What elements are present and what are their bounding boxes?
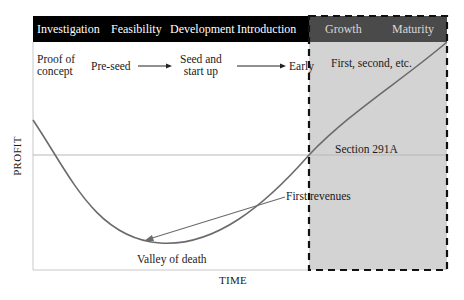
arrowhead-icon (166, 64, 172, 69)
y-axis-label: PROFIT (11, 136, 23, 176)
funding-proof-of-concept-line1: Proof of (37, 53, 75, 65)
growth-maturity-region (309, 42, 447, 270)
funding-seed-start-up: Seed and start up (180, 53, 222, 77)
section-291a-label: Section 291A (335, 143, 398, 155)
funding-seed-line2: start up (180, 65, 222, 77)
valley-of-death-label: Valley of death (137, 253, 207, 265)
funding-pre-seed: Pre-seed (91, 60, 131, 72)
funding-proof-of-concept-line2: concept (37, 65, 75, 77)
stage-maturity: Maturity (392, 16, 434, 42)
stage-growth: Growth (325, 16, 362, 42)
stage-introduction: Introduction (237, 16, 296, 42)
first-revenues-pointer (149, 197, 285, 239)
arrowhead-icon (280, 64, 286, 69)
stage-feasibility: Feasibility (111, 16, 162, 42)
funding-early: Early (289, 60, 314, 72)
stage-investigation: Investigation (37, 16, 100, 42)
arrowhead-icon (144, 235, 154, 241)
first-revenues-label: First revenues (286, 190, 351, 202)
funding-later-rounds: First, second, etc. (331, 57, 412, 69)
funding-proof-of-concept: Proof of concept (37, 53, 75, 77)
x-axis-label: TIME (219, 274, 247, 286)
funding-seed-line1: Seed and (180, 53, 222, 65)
stage-development: Development (170, 16, 235, 42)
